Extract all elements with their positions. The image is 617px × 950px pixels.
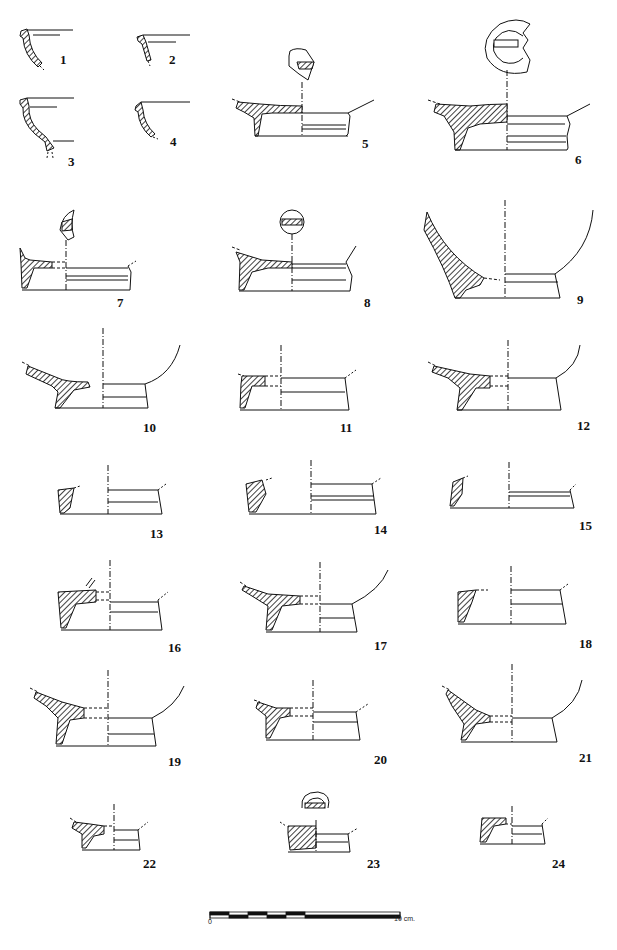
profile-14 bbox=[246, 460, 381, 514]
profile-23 bbox=[280, 792, 358, 852]
profile-24 bbox=[480, 806, 548, 844]
figure-label-17: 17 bbox=[374, 638, 387, 654]
profile-8 bbox=[232, 210, 356, 291]
profile-11 bbox=[238, 345, 356, 410]
figure-label-4: 4 bbox=[170, 134, 177, 150]
profile-5 bbox=[232, 49, 374, 136]
figure-label-21: 21 bbox=[579, 750, 592, 766]
figure-label-6: 6 bbox=[575, 152, 582, 168]
profile-7 bbox=[20, 210, 136, 290]
profile-4 bbox=[135, 102, 190, 139]
figure-label-3: 3 bbox=[68, 154, 75, 170]
pottery-plate bbox=[0, 0, 617, 950]
figure-label-19: 19 bbox=[168, 754, 181, 770]
profile-21 bbox=[442, 664, 582, 742]
figure-label-11: 11 bbox=[340, 420, 352, 436]
figure-label-8: 8 bbox=[364, 295, 371, 311]
figure-label-7: 7 bbox=[117, 295, 124, 311]
profile-19 bbox=[30, 670, 184, 746]
figure-label-15: 15 bbox=[579, 518, 592, 534]
profile-6 bbox=[428, 20, 590, 150]
figure-label-2: 2 bbox=[169, 52, 176, 68]
figure-label-14: 14 bbox=[374, 522, 387, 538]
figure-label-9: 9 bbox=[577, 292, 584, 308]
profile-17 bbox=[240, 562, 388, 632]
profile-2 bbox=[137, 35, 190, 66]
figure-label-1: 1 bbox=[60, 52, 67, 68]
profile-15 bbox=[450, 462, 576, 508]
profile-22 bbox=[70, 804, 148, 850]
figure-label-10: 10 bbox=[143, 420, 156, 436]
profile-12 bbox=[428, 340, 580, 410]
figure-label-18: 18 bbox=[579, 636, 592, 652]
profile-13 bbox=[58, 465, 166, 514]
figure-label-13: 13 bbox=[150, 526, 163, 542]
profile-10 bbox=[22, 328, 180, 408]
figure-label-20: 20 bbox=[374, 752, 387, 768]
figure-label-24: 24 bbox=[552, 856, 565, 872]
profile-18 bbox=[458, 566, 568, 624]
figure-label-5: 5 bbox=[362, 136, 369, 152]
scale-bar bbox=[210, 912, 400, 920]
profile-16 bbox=[58, 560, 168, 630]
scale-start-label: 0 bbox=[208, 918, 212, 925]
figure-label-12: 12 bbox=[577, 418, 590, 434]
figure-label-22: 22 bbox=[143, 856, 156, 872]
profile-20 bbox=[254, 680, 368, 740]
profile-3 bbox=[20, 98, 74, 158]
figure-label-23: 23 bbox=[367, 856, 380, 872]
scale-end-label: 10 cm. bbox=[394, 915, 415, 922]
figure-label-16: 16 bbox=[168, 640, 181, 656]
profile-9 bbox=[424, 200, 593, 298]
